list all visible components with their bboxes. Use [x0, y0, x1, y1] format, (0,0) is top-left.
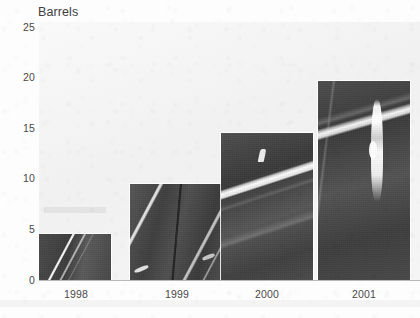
y-tick-5: 5: [3, 223, 35, 235]
bar-2000: [221, 133, 313, 280]
bar-highlight-spot-2001: [369, 141, 377, 159]
bar-2001: [318, 81, 410, 280]
y-tick-15: 15: [3, 122, 35, 134]
bar-photo-texture-2001: [318, 81, 410, 280]
scan-artifact-bottom: [0, 300, 420, 307]
plot-area: [39, 22, 420, 280]
bar-photo-texture-2000: [221, 133, 313, 280]
y-axis: 0 5 10 15 20 25: [0, 0, 35, 318]
y-axis-title: Barrels: [38, 5, 78, 19]
x-tick-1999: 1999: [165, 288, 189, 300]
bar-photo-texture-1998: [39, 234, 111, 280]
bar-1998: [39, 234, 111, 280]
y-tick-10: 10: [3, 172, 35, 184]
bar-1999: [130, 184, 222, 280]
y-tick-0: 0: [3, 274, 35, 286]
x-tick-2001: 2001: [352, 288, 376, 300]
x-axis-line: [39, 280, 420, 281]
bar-photo-texture-1999: [130, 184, 222, 280]
x-tick-1998: 1998: [64, 288, 88, 300]
y-tick-25: 25: [3, 21, 35, 33]
scanned-chart-page: Barrels 0 5 10 15 20 25: [0, 0, 420, 318]
x-tick-2000: 2000: [255, 288, 279, 300]
y-tick-20: 20: [3, 71, 35, 83]
